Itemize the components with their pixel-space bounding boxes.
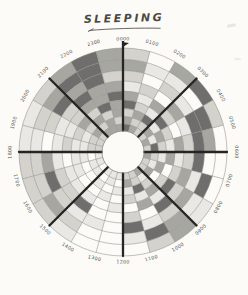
hour-label: 0500: [228, 116, 237, 130]
hour-label: 1800: [7, 145, 12, 159]
hour-label: 1900: [10, 116, 19, 130]
sleep-radial-chart: 0000010002000300040005000600070008000900…: [0, 0, 248, 295]
hour-label: 2200: [59, 49, 73, 60]
hour-label: 1300: [87, 254, 101, 262]
center-hole: [103, 132, 144, 173]
hour-label: 0600: [234, 145, 239, 158]
hour-label: 0300: [196, 66, 209, 79]
hour-label: 0000: [116, 36, 130, 41]
hour-label: 0100: [145, 39, 159, 47]
sketch-paper: SLEEPING 0000010002000300040005000600070…: [0, 0, 248, 295]
hour-label: 2100: [37, 66, 50, 79]
hour-label: 1100: [144, 254, 158, 262]
hour-label: 2300: [87, 39, 101, 48]
hour-label: 0400: [215, 88, 226, 102]
hour-label: 0200: [173, 48, 187, 59]
hour-label: 0700: [225, 173, 234, 187]
axis-arrow-icon: [122, 42, 129, 47]
page-title: SLEEPING: [84, 11, 165, 26]
hour-label: 2000: [20, 88, 31, 102]
hour-label: 1200: [116, 259, 130, 264]
hour-label: 1700: [13, 173, 21, 187]
